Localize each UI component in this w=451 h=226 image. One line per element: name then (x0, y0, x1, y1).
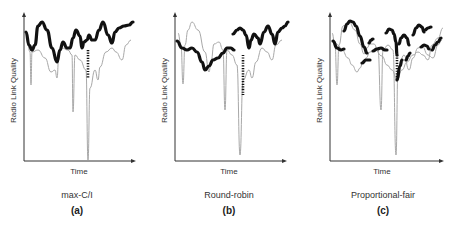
y-axis-arrow-icon (328, 12, 332, 17)
y-axis-label: Radio Link Quality (315, 58, 324, 123)
x-axis-arrow-icon (282, 159, 287, 163)
y-axis-arrow-icon (22, 12, 26, 17)
scheduled-segment (421, 45, 429, 49)
panel-b: Radio Link Quality Time Round-robin (b) (160, 12, 288, 216)
y-axis-arrow-icon (173, 12, 177, 17)
panel-letter: (b) (223, 205, 236, 216)
scheduled-segment (373, 48, 387, 51)
scheduled-segment (399, 35, 409, 45)
scheduler-name: Round-robin (204, 190, 254, 200)
scheduled-segment (425, 27, 431, 30)
panel-letter: (c) (377, 205, 389, 216)
scheduled-curve-user-2 (233, 22, 288, 48)
x-axis-label: Time (373, 167, 391, 176)
x-axis-arrow-icon (131, 159, 136, 163)
channel-curve-user-1 (332, 22, 442, 155)
panel-letter: (a) (71, 205, 83, 216)
panel-a: Radio Link Quality Time max-C/I (a) (9, 12, 136, 216)
channel-curve-user-2 (27, 40, 131, 160)
channel-curve-user-1 (178, 22, 282, 155)
x-axis-label: Time (70, 167, 88, 176)
scheduled-curve-user-1 (177, 41, 234, 70)
scheduler-name: max-C/I (61, 190, 93, 200)
scheduled-segment (344, 21, 367, 53)
scheduler-comparison-figure: Radio Link Quality Time max-C/I (a) Radi… (0, 0, 451, 226)
scheduled-segment (362, 60, 370, 63)
panel-c: Radio Link Quality Time Proportional-fai… (315, 12, 444, 216)
scheduled-segment (369, 39, 373, 43)
x-axis-label: Time (220, 167, 238, 176)
y-axis-label: Radio Link Quality (160, 58, 169, 123)
scheduled-segment (413, 25, 424, 35)
scheduler-name: Proportional-fair (351, 190, 415, 200)
x-axis-arrow-icon (439, 159, 444, 163)
y-axis-label: Radio Link Quality (9, 58, 18, 123)
